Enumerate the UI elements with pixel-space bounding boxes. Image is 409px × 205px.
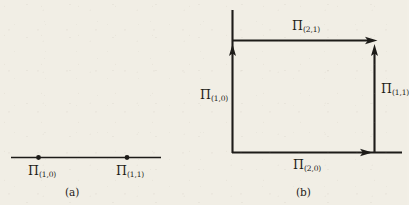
panel-b-label-pi-2-0: Π(2,0) (293, 159, 321, 173)
pi-glyph: Π (116, 163, 127, 178)
panel-a-vertex-left (36, 155, 41, 160)
pi-subscript: (2,1) (303, 25, 320, 34)
panel-a-group (11, 155, 161, 160)
panel-a-label-pi-1-0: Π(1,0) (28, 165, 56, 179)
panel-a-caption: (a) (65, 187, 79, 198)
pi-glyph: Π (28, 163, 39, 178)
pi-glyph: Π (293, 157, 304, 172)
panel-a-label-pi-1-1: Π(1,1) (116, 165, 144, 179)
pi-glyph: Π (381, 81, 392, 96)
pi-glyph: Π (292, 18, 303, 33)
pi-glyph: Π (200, 87, 211, 102)
pi-subscript: (1,1) (392, 88, 409, 97)
panel-b-label-pi-1-0: Π(1,0) (200, 89, 228, 103)
pi-subscript: (1,0) (39, 170, 56, 179)
panel-b-label-pi-2-1: Π(2,1) (292, 20, 320, 34)
pi-subscript: (1,0) (211, 94, 228, 103)
pi-subscript: (2,0) (304, 164, 321, 173)
panel-b-label-pi-1-1: Π(1,1) (381, 83, 409, 97)
panel-a-vertex-right (125, 155, 130, 160)
pi-subscript: (1,1) (127, 170, 144, 179)
panel-b-caption: (b) (296, 187, 311, 198)
